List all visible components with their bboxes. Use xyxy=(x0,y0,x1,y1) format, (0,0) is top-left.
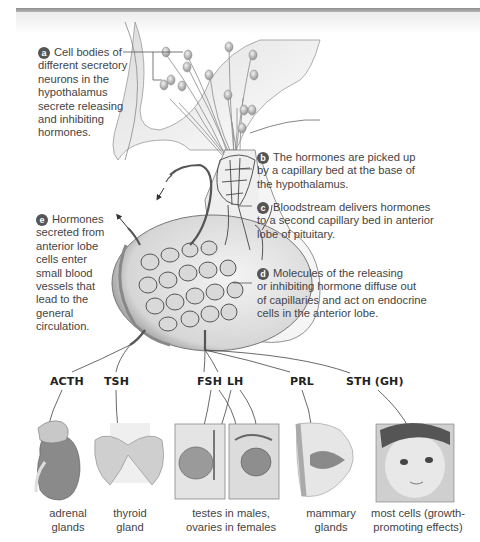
target-label-thyroid: thyroid gland xyxy=(95,507,165,534)
vessel-arrow xyxy=(118,216,128,228)
adrenal-gland-illustration xyxy=(36,421,80,500)
hormone-label-fsh: FSH xyxy=(197,375,222,388)
hormone-label-tsh: TSH xyxy=(104,375,129,388)
mammary-gland-illustration xyxy=(297,423,354,497)
hypothalamus xyxy=(113,22,320,160)
target-label-gonads: testes in males, ovaries in females xyxy=(176,507,286,534)
infant-photo xyxy=(376,423,454,502)
callout-badge-d: d xyxy=(257,268,269,280)
testis-ovary-illustration xyxy=(175,424,279,499)
callout-badge-a: a xyxy=(38,47,50,59)
target-label-adrenal: adrenal glands xyxy=(33,507,103,534)
vessel-arrow xyxy=(158,188,164,198)
callout-badge-c: c xyxy=(257,202,269,214)
target-label-most-cells: most cells (growth- promoting effects) xyxy=(368,507,468,534)
callout-d: dMolecules of the releasing or inhibitin… xyxy=(257,267,427,321)
target-label-mammary: mammary glands xyxy=(296,507,366,534)
callout-c: cBloodstream delivers hormones to a seco… xyxy=(257,201,434,241)
hormone-label-sth-gh: STH (GH) xyxy=(346,375,404,388)
thyroid-gland-illustration xyxy=(95,423,164,485)
callout-badge-b: b xyxy=(257,152,269,164)
hormone-label-acth: ACTH xyxy=(50,375,84,388)
hormone-label-lh: LH xyxy=(227,375,243,388)
hormone-label-prl: PRL xyxy=(290,375,314,388)
callout-a: aCell bodies of different secretory neur… xyxy=(38,46,127,140)
callout-b: bThe hormones are picked up by a capilla… xyxy=(257,151,415,191)
callout-badge-e: e xyxy=(36,214,48,226)
target-arrows xyxy=(47,390,410,430)
callout-e: eHormones secreted from anterior lobe ce… xyxy=(36,213,104,334)
